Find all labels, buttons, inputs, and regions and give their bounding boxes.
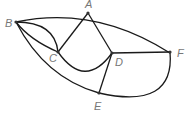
graph-diagram: A B C D E F [0, 0, 187, 113]
label-a: A [84, 0, 92, 10]
label-c: C [49, 52, 57, 64]
node-d [110, 51, 113, 54]
label-b: B [5, 17, 12, 29]
label-d: D [115, 56, 123, 68]
edge-b-e [16, 22, 99, 93]
edge-d-f [112, 52, 170, 53]
node-a [86, 11, 89, 14]
node-f [168, 50, 171, 53]
node-e [97, 91, 100, 94]
label-e: E [94, 100, 102, 112]
label-f: F [177, 47, 185, 59]
edge-b-c-upper [16, 22, 58, 52]
edge-a-d [88, 13, 112, 53]
edge-b-c-lower [16, 22, 58, 52]
edge-b-a-f [16, 18, 170, 53]
edge-d-e [99, 53, 112, 93]
edge-c-d [58, 52, 112, 71]
node-b [14, 20, 17, 23]
